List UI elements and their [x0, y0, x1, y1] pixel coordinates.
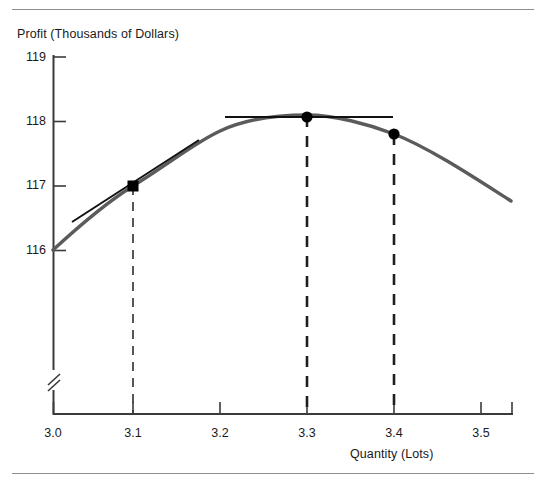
- profit-curve-path: [53, 115, 511, 250]
- x-axis-ticks: [54, 402, 513, 414]
- data-point-marker-3-1: [128, 181, 139, 192]
- data-point-marker-3-4: [388, 128, 399, 139]
- axis-lines: [53, 55, 513, 415]
- y-axis-break-icon: [48, 374, 60, 391]
- y-axis-ticks: [54, 57, 67, 251]
- figure-page: Profit (Thousands of Dollars) Quantity (…: [0, 0, 534, 489]
- profit-curve-chart: [0, 0, 534, 489]
- tangent-lines: [72, 117, 393, 222]
- data-point-marker-3-3: [301, 111, 312, 122]
